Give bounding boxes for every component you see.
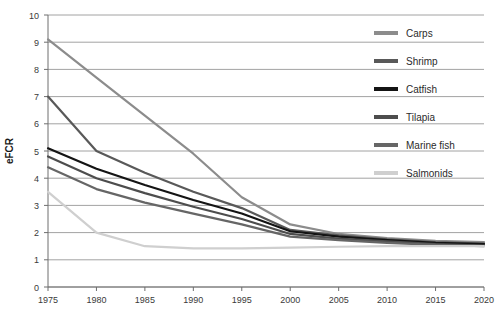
y-axis-tick-label: 2 <box>34 228 39 238</box>
x-axis-tick-label: 2005 <box>329 295 349 305</box>
y-axis-tick-label: 6 <box>34 119 39 129</box>
x-axis-tick-label: 2010 <box>377 295 397 305</box>
legend-label-carps: Carps <box>406 28 433 39</box>
y-axis-title: eFCR <box>4 137 15 164</box>
legend-label-tilapia: Tilapia <box>406 112 436 123</box>
x-axis-tick-label: 2000 <box>280 295 300 305</box>
x-axis-tick-labels: 1975198019851990199520002005201020152020 <box>38 295 494 305</box>
y-axis-tick-label: 7 <box>34 92 39 102</box>
y-axis-tick-label: 9 <box>34 38 39 48</box>
y-axis-tick-label: 0 <box>34 283 39 293</box>
x-axis-tick-label: 1985 <box>135 295 155 305</box>
x-axis-tick-label: 1975 <box>38 295 58 305</box>
legend-label-catfish: Catfish <box>406 84 437 95</box>
y-axis-tick-label: 8 <box>34 65 39 75</box>
x-axis-tick-label: 1990 <box>183 295 203 305</box>
line-chart: 012345678910 197519801985199019952000200… <box>0 0 498 312</box>
y-axis-tick-label: 3 <box>34 201 39 211</box>
chart-legend: CarpsShrimpCatfishTilapiaMarine fishSalm… <box>374 28 455 179</box>
legend-label-marine-fish: Marine fish <box>406 140 455 151</box>
x-axis-tick-label: 1980 <box>86 295 106 305</box>
chart-container: 012345678910 197519801985199019952000200… <box>0 0 498 312</box>
x-axis-tick-label: 1995 <box>232 295 252 305</box>
series-line-marine-fish <box>48 167 484 246</box>
x-axis-tick-label: 2015 <box>426 295 446 305</box>
legend-label-shrimp: Shrimp <box>406 56 438 67</box>
y-axis-tick-label: 10 <box>29 11 39 21</box>
y-axis-tick-label: 5 <box>34 147 39 157</box>
y-axis-tick-labels: 012345678910 <box>29 11 39 293</box>
legend-label-salmonids: Salmonids <box>406 168 453 179</box>
y-axis-tick-label: 1 <box>34 255 39 265</box>
x-axis-tick-label: 2020 <box>474 295 494 305</box>
y-axis-tick-label: 4 <box>34 174 39 184</box>
